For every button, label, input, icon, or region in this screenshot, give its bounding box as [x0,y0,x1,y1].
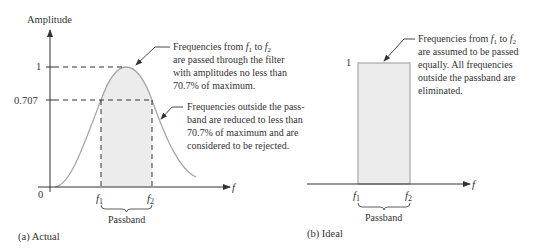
f2-label-ideal: f2 [405,189,412,203]
y-axis-label: Amplitude [27,14,72,25]
tick-label-0707: 0.707 [14,95,38,106]
panel-ideal: 1 f f1 f2 Passband (b) Ideal Frequencies… [307,33,521,240]
x-axis-label: f [232,181,237,193]
note2-text: Frequencies outside the pass- band are r… [187,101,307,151]
note-ideal-text: Frequencies from f1 to f2 are assumed to… [418,33,521,96]
filter-response-diagram: Amplitude 1 0.707 0 f f1 f2 Passband (a)… [0,0,539,252]
caption-ideal: (b) Ideal [307,228,343,240]
passband-label: Passband [108,214,145,225]
passband-fill [101,67,152,187]
note1-text: Frequencies from f1 to f2 are passed thr… [173,41,289,91]
panel-actual: Amplitude 1 0.707 0 f f1 f2 Passband (a)… [14,14,307,243]
x-axis-label-ideal: f [472,178,477,190]
passband-label-ideal: Passband [365,212,402,223]
origin-label: 0 [38,189,43,200]
f2-label: f2 [147,192,154,206]
passband-brace [101,205,152,212]
f1-label-ideal: f1 [353,189,360,203]
f1-label: f1 [96,192,103,206]
note1-leader [136,47,170,65]
note2-leader [161,107,183,119]
caption-actual: (a) Actual [18,231,60,243]
tick-label-1: 1 [36,61,41,72]
note-ideal-leader [384,39,415,61]
ideal-passband-rect [358,63,410,184]
passband-brace-ideal [358,203,410,210]
tick-label-1-ideal: 1 [346,57,351,68]
